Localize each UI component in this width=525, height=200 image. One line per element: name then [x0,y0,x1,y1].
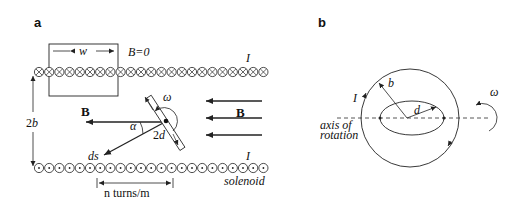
ds-label: ds [88,149,99,163]
inner-loop-right-point [443,117,446,120]
inner-loop-left-point [379,117,382,120]
axis-label-line2: rotation [320,128,358,142]
pivot-dot [164,119,169,124]
field-left-label: B [81,104,90,119]
current-top-label: I [245,51,251,65]
inner-radius-arrow [407,107,436,118]
figure-canvas: a w B=0 I I solenoid 2b [0,0,525,200]
current-label: I [352,91,358,105]
current-bottom-label: I [245,149,251,163]
solenoid-top-row [34,67,268,76]
angle-arc [140,122,143,134]
width-label: w [79,44,87,58]
angular-velocity-label: ω [163,90,171,104]
rotation-arrow [476,103,497,131]
panel-b-label: b [318,15,326,30]
field-outside-label: B=0 [128,45,149,59]
turns-density-label: n turns/m [104,186,150,200]
inner-radius-label: d [414,103,421,117]
solenoid-bottom-row [34,163,268,172]
rod-length-label: 2d [153,128,166,142]
field-right-label: B [236,105,245,120]
panel-a: a w B=0 I I solenoid 2b [26,15,268,200]
panel-b: b axis of rotation I b d ω [318,15,498,167]
angular-velocity-label-b: ω [490,85,498,99]
panel-a-label: a [34,15,42,30]
angle-label: α [130,119,137,133]
solenoid-label: solenoid [224,174,266,188]
outer-radius-label: b [388,76,394,90]
height-label: 2b [26,116,38,130]
